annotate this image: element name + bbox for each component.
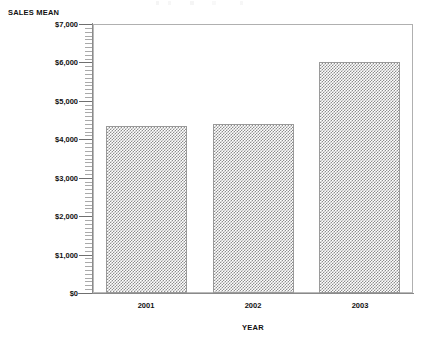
x-axis-title: YEAR — [93, 323, 413, 332]
bar — [319, 62, 400, 293]
bar — [213, 124, 294, 293]
x-tick-label: 2001 — [116, 301, 176, 310]
bar — [106, 126, 187, 293]
bar-chart-figure: SALES MEAN $0$1,000$2,000$3,000$4,000$5,… — [0, 0, 437, 348]
x-tick-label: 2003 — [330, 301, 390, 310]
x-tick-label: 2002 — [223, 301, 283, 310]
bar-series — [0, 0, 437, 348]
